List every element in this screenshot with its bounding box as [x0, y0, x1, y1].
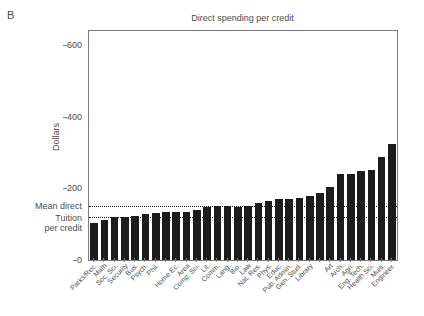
bar: [203, 207, 211, 260]
x-tick-mark: [103, 258, 104, 262]
bar: [183, 212, 191, 260]
plot-inner: Dollars 0200400600 Mean directTuitionper…: [89, 31, 397, 260]
bar: [101, 220, 109, 260]
bar: [347, 174, 355, 260]
bar: [172, 212, 180, 260]
x-tick-mark: [186, 258, 187, 262]
plot-area: Dollars 0200400600 Mean directTuitionper…: [88, 30, 398, 261]
bar: [337, 174, 345, 260]
y-tick-mark: [73, 260, 77, 261]
x-tick-mark: [206, 258, 207, 262]
panel-letter: B: [7, 9, 14, 21]
chart-title: Direct spending per credit: [88, 13, 397, 23]
bar: [368, 170, 376, 260]
y-tick-mark: [63, 45, 67, 46]
figure-panel: B Direct spending per credit Dollars 020…: [0, 0, 424, 316]
x-tick-mark: [288, 258, 289, 262]
x-tick-mark: [370, 258, 371, 262]
x-tick-mark: [237, 258, 238, 262]
bar: [255, 203, 263, 260]
y-tick-mark: [63, 117, 67, 118]
x-tick-mark: [247, 258, 248, 262]
x-tick-mark: [268, 258, 269, 262]
bar: [275, 199, 283, 260]
x-tick-mark: [381, 258, 382, 262]
x-tick-mark: [340, 258, 341, 262]
bar: [214, 206, 222, 260]
y-tick-label: 400: [67, 112, 89, 122]
bar: [357, 171, 365, 260]
bar: [142, 214, 150, 260]
x-tick-mark: [350, 258, 351, 262]
x-tick-mark: [257, 258, 258, 262]
y-tick-label: 200: [67, 183, 89, 193]
x-tick-mark: [175, 258, 176, 262]
x-tick-label: Phil.: [145, 262, 160, 277]
bar: [244, 206, 252, 260]
x-tick-mark: [196, 258, 197, 262]
bar: [193, 210, 201, 260]
x-tick-mark: [309, 258, 310, 262]
x-tick-mark: [329, 258, 330, 262]
bar: [306, 196, 314, 260]
bar: [326, 187, 334, 260]
bar: [265, 201, 273, 260]
reference-line-label: Tuitionper credit: [44, 213, 89, 233]
x-tick-mark: [216, 258, 217, 262]
x-tick-label: Parks/Rec.: [69, 262, 98, 291]
x-tick-mark: [360, 258, 361, 262]
bar: [285, 199, 293, 260]
x-tick-mark: [144, 258, 145, 262]
x-tick-mark: [227, 258, 228, 262]
bar: [111, 217, 119, 260]
bar: [316, 193, 324, 260]
bar: [378, 157, 386, 260]
x-tick-mark: [114, 258, 115, 262]
y-axis-label: Dollars: [51, 123, 61, 151]
x-tick-mark: [298, 258, 299, 262]
y-tick-mark: [63, 188, 67, 189]
bar-series: [89, 31, 397, 260]
bar: [121, 217, 129, 260]
bar: [131, 216, 139, 260]
bar: [296, 198, 304, 260]
bar: [234, 207, 242, 260]
x-tick-mark: [93, 258, 94, 262]
bar: [224, 206, 232, 260]
x-tick-mark: [319, 258, 320, 262]
x-tick-mark: [165, 258, 166, 262]
x-tick-mark: [278, 258, 279, 262]
reference-line-label: Mean direct: [35, 201, 89, 211]
x-axis-labels: Parks/Rec.MathSoc. Sci.SecurityBus.Psych…: [88, 262, 398, 314]
x-tick-mark: [155, 258, 156, 262]
bar: [152, 213, 160, 260]
x-tick-mark: [134, 258, 135, 262]
bar: [162, 212, 170, 260]
x-tick-mark: [391, 258, 392, 262]
bar: [388, 144, 396, 260]
bar: [90, 223, 98, 260]
x-tick-mark: [124, 258, 125, 262]
y-tick-label: 600: [67, 40, 89, 50]
